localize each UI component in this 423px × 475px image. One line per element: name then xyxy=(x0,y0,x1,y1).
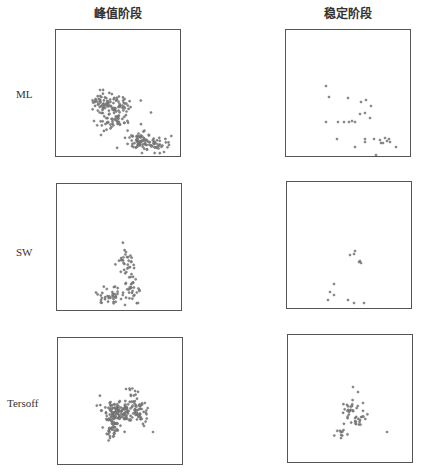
data-point xyxy=(115,301,117,303)
data-point xyxy=(133,286,135,288)
data-point xyxy=(104,296,106,298)
data-point xyxy=(116,147,118,149)
data-point xyxy=(328,96,330,98)
data-point xyxy=(156,139,158,141)
data-point xyxy=(127,403,129,405)
data-point xyxy=(125,416,127,418)
data-point xyxy=(118,103,120,105)
data-point xyxy=(137,415,139,417)
data-point xyxy=(117,101,119,103)
data-point xyxy=(149,141,151,143)
data-point xyxy=(104,406,106,408)
data-point xyxy=(132,412,134,414)
data-point xyxy=(146,418,148,420)
data-point xyxy=(122,256,124,258)
data-point xyxy=(108,427,110,429)
data-point xyxy=(99,106,101,108)
data-point xyxy=(109,124,111,126)
data-point xyxy=(100,409,102,411)
data-point xyxy=(358,261,360,263)
data-point xyxy=(132,290,134,292)
data-point xyxy=(359,424,361,426)
data-point xyxy=(146,144,148,146)
data-point xyxy=(124,400,126,402)
data-point xyxy=(131,257,133,259)
data-point xyxy=(131,140,133,142)
data-point xyxy=(108,103,110,105)
data-point xyxy=(352,386,354,388)
data-point xyxy=(125,114,127,116)
data-point xyxy=(125,297,127,299)
data-point xyxy=(379,139,381,141)
data-point xyxy=(112,119,114,121)
data-point xyxy=(125,271,127,273)
data-point xyxy=(109,409,111,411)
data-point xyxy=(127,264,129,266)
data-point xyxy=(109,437,111,439)
data-point xyxy=(343,121,345,123)
data-point xyxy=(108,419,110,421)
data-point xyxy=(129,389,131,391)
data-point xyxy=(125,411,127,413)
data-point xyxy=(364,138,366,140)
data-point xyxy=(133,264,135,266)
data-point xyxy=(122,242,124,244)
data-point xyxy=(342,403,344,405)
data-point xyxy=(100,299,102,301)
data-point xyxy=(99,395,101,397)
data-point xyxy=(369,117,371,119)
data-point xyxy=(122,96,124,98)
data-point xyxy=(164,138,166,140)
data-point xyxy=(116,412,118,414)
data-point xyxy=(112,296,114,298)
data-point xyxy=(114,119,116,121)
data-point xyxy=(140,123,142,125)
data-point xyxy=(357,391,359,393)
data-point xyxy=(124,137,126,139)
data-point xyxy=(131,282,133,284)
data-point xyxy=(133,409,135,411)
data-point xyxy=(92,108,94,110)
data-point xyxy=(106,121,108,123)
data-point xyxy=(103,115,105,117)
data-point xyxy=(130,135,132,137)
data-point xyxy=(117,291,119,293)
data-point xyxy=(154,142,156,144)
data-point xyxy=(349,254,351,256)
data-point xyxy=(352,409,354,411)
data-point xyxy=(114,415,116,417)
data-point xyxy=(123,116,125,118)
data-point xyxy=(100,301,102,303)
data-point xyxy=(150,145,152,147)
data-point xyxy=(115,296,117,298)
data-point xyxy=(170,135,172,137)
data-point xyxy=(364,418,366,420)
data-point xyxy=(112,102,114,104)
data-point xyxy=(124,431,126,433)
data-point xyxy=(113,432,115,434)
data-point xyxy=(111,121,113,123)
data-point xyxy=(347,299,349,301)
data-point xyxy=(144,142,146,144)
scatter-points-layer xyxy=(0,0,423,475)
data-point xyxy=(142,140,144,142)
data-point xyxy=(131,387,133,389)
data-point xyxy=(122,294,124,296)
data-point xyxy=(101,297,103,299)
data-point xyxy=(108,439,110,441)
data-point xyxy=(96,405,98,407)
data-point xyxy=(347,416,349,418)
data-point xyxy=(101,124,103,126)
data-point xyxy=(141,418,143,420)
data-point xyxy=(145,140,147,142)
data-point xyxy=(111,93,113,95)
data-point xyxy=(145,409,147,411)
data-point xyxy=(123,418,125,420)
data-point xyxy=(111,428,113,430)
data-point xyxy=(137,391,139,393)
data-point xyxy=(152,139,154,141)
data-point xyxy=(112,124,114,126)
data-point xyxy=(103,286,105,288)
data-point xyxy=(340,437,342,439)
data-point xyxy=(350,422,352,424)
